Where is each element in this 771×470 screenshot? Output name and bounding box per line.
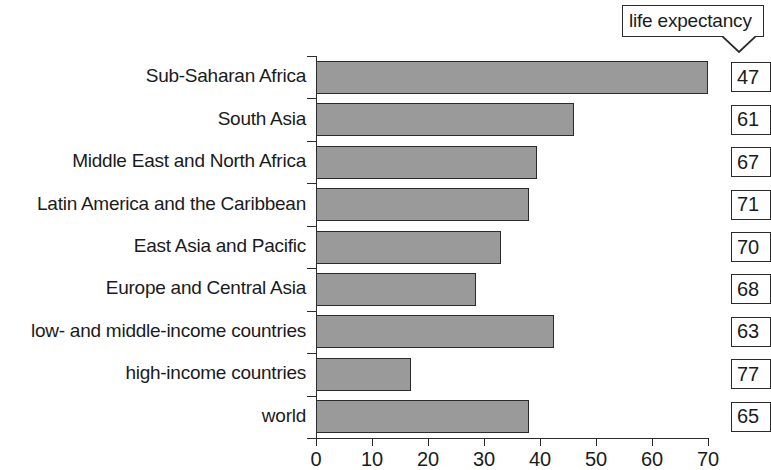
bar	[316, 231, 501, 264]
bar	[316, 146, 537, 179]
x-tick-label-30: 30	[473, 448, 495, 470]
category-label: low- and middle-income countries	[0, 320, 316, 342]
life-expectancy-value-box: 63	[731, 317, 771, 347]
x-tick-label-20: 20	[417, 448, 439, 470]
category-label: Latin America and the Caribbean	[0, 193, 316, 215]
x-tick-label-0: 0	[310, 448, 321, 470]
x-tick-70	[708, 438, 709, 446]
callout-tail-icon	[722, 36, 756, 53]
x-axis-line	[316, 438, 708, 439]
x-tick-60	[652, 438, 653, 446]
bar	[316, 400, 529, 433]
x-tick-20	[428, 438, 429, 446]
bar	[316, 273, 476, 306]
category-label: Middle East and North Africa	[0, 150, 316, 172]
x-tick-label-60: 60	[641, 448, 663, 470]
life-expectancy-value-box: 67	[731, 147, 771, 177]
x-tick-30	[484, 438, 485, 446]
bar	[316, 358, 411, 391]
life-expectancy-value-box: 70	[731, 232, 771, 262]
y-tick-4	[307, 226, 316, 227]
y-tick-5	[307, 268, 316, 269]
y-tick-6	[307, 311, 316, 312]
life-expectancy-value-box: 47	[731, 62, 771, 92]
x-tick-40	[540, 438, 541, 446]
x-tick-0	[316, 438, 317, 446]
x-tick-label-10: 10	[361, 448, 383, 470]
x-tick-10	[372, 438, 373, 446]
x-tick-50	[596, 438, 597, 446]
category-label: Sub-Saharan Africa	[0, 65, 316, 87]
y-tick-9	[307, 438, 316, 439]
life-expectancy-callout: life expectancy	[622, 5, 764, 37]
bar	[316, 188, 529, 221]
y-tick-2	[307, 141, 316, 142]
y-tick-3	[307, 183, 316, 184]
bar	[316, 61, 708, 94]
x-tick-label-50: 50	[585, 448, 607, 470]
life-expectancy-value-box: 71	[731, 190, 771, 220]
y-tick-0	[307, 56, 316, 57]
category-label: South Asia	[0, 108, 316, 130]
y-tick-8	[307, 396, 316, 397]
x-tick-label-40: 40	[529, 448, 551, 470]
y-tick-7	[307, 353, 316, 354]
bar	[316, 315, 554, 348]
life-expectancy-value-box: 68	[731, 274, 771, 304]
bar	[316, 103, 574, 136]
category-label: Europe and Central Asia	[0, 277, 316, 299]
category-label: world	[0, 405, 316, 427]
category-label: high-income countries	[0, 362, 316, 384]
life-expectancy-value-box: 65	[731, 402, 771, 432]
plot-area: 010203040506070	[316, 56, 708, 438]
life-expectancy-value-box: 61	[731, 105, 771, 135]
life-expectancy-value-box: 77	[731, 359, 771, 389]
x-tick-label-70: 70	[697, 448, 719, 470]
life-expectancy-callout-label: life expectancy	[629, 10, 752, 32]
y-tick-1	[307, 98, 316, 99]
y-axis-line	[316, 56, 317, 438]
category-label: East Asia and Pacific	[0, 235, 316, 257]
